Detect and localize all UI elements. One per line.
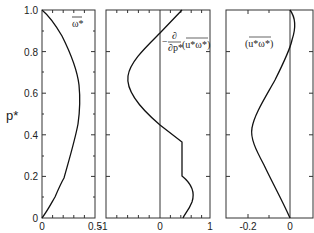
- svg-text:1: 1: [207, 221, 213, 232]
- panel-1-label: ω*: [72, 17, 84, 29]
- svg-text:0: 0: [39, 221, 45, 232]
- profile-chart: p* 0 0.2 0.4 0.6 0.8 1.0 ω*: [0, 0, 314, 233]
- panel-1-ticks: [42, 10, 95, 218]
- svg-text:0: 0: [32, 213, 38, 224]
- svg-text:(u*ω*): (u*ω*): [245, 38, 273, 50]
- svg-text:0: 0: [287, 221, 293, 232]
- svg-text:∂p*: ∂p*: [168, 42, 183, 53]
- panel-omega: ω* 0 0.5: [39, 10, 102, 232]
- panel-2-label: − ∂ ∂p* (u*ω*): [162, 30, 210, 53]
- svg-text:0.8: 0.8: [24, 47, 38, 58]
- omega-curve: [42, 10, 80, 218]
- svg-text:-0.2: -0.2: [239, 221, 257, 232]
- panel-3-label: (u*ω*): [245, 37, 273, 50]
- svg-text:(u*ω*): (u*ω*): [182, 39, 210, 51]
- y-axis-label: p*: [6, 108, 18, 123]
- svg-text:1.0: 1.0: [24, 5, 38, 16]
- svg-text:0.4: 0.4: [24, 130, 38, 141]
- svg-text:-1: -1: [99, 221, 108, 232]
- y-tick-labels: 0 0.2 0.4 0.6 0.8 1.0: [24, 5, 38, 224]
- svg-text:ω*: ω*: [72, 18, 84, 29]
- panel-1-frame: [42, 10, 95, 218]
- svg-text:0.2: 0.2: [24, 171, 38, 182]
- svg-text:0.6: 0.6: [24, 88, 38, 99]
- panel-flux-divergence: − ∂ ∂p* (u*ω*) -1 0 1: [99, 10, 214, 232]
- panel-momentum-flux: (u*ω*) -0.2 0: [226, 10, 313, 232]
- svg-text:0: 0: [157, 221, 163, 232]
- svg-text:∂: ∂: [172, 30, 177, 41]
